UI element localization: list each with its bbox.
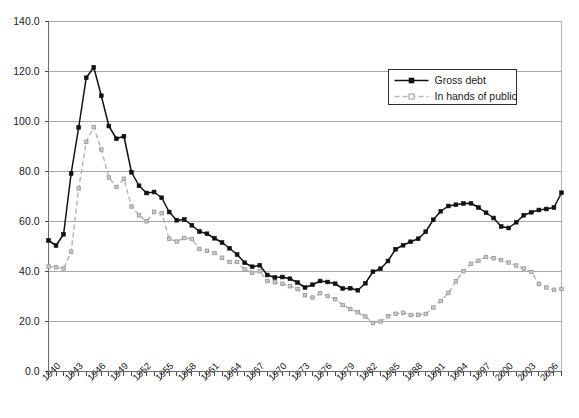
data-point-marker xyxy=(115,185,118,188)
data-point-marker xyxy=(371,321,374,324)
data-point-marker xyxy=(107,176,110,179)
data-point-marker xyxy=(537,208,541,212)
data-point-marker xyxy=(288,277,292,281)
y-tick-label: 0.0 xyxy=(25,365,40,377)
data-point-marker xyxy=(205,232,209,236)
data-point-marker xyxy=(62,267,65,270)
data-point-marker xyxy=(311,296,314,299)
data-point-marker xyxy=(175,240,178,243)
data-point-marker xyxy=(326,280,330,284)
data-point-marker xyxy=(424,230,428,234)
data-point-marker xyxy=(560,287,563,290)
data-point-marker xyxy=(371,270,375,274)
data-point-marker xyxy=(416,237,420,241)
data-point-marker xyxy=(122,134,126,138)
data-point-marker xyxy=(243,268,246,271)
data-point-marker xyxy=(454,280,457,283)
data-point-marker xyxy=(469,201,473,205)
data-point-marker xyxy=(560,191,564,195)
data-point-marker xyxy=(130,205,133,208)
data-point-marker xyxy=(62,232,66,236)
data-point-marker xyxy=(220,241,224,245)
data-point-marker xyxy=(122,177,125,180)
data-point-marker xyxy=(409,313,412,316)
data-point-marker xyxy=(296,287,299,290)
data-point-marker xyxy=(92,65,96,69)
data-point-marker xyxy=(228,260,231,263)
data-point-marker xyxy=(280,275,284,279)
data-point-marker xyxy=(507,261,510,264)
data-point-marker xyxy=(439,209,443,213)
data-point-marker xyxy=(213,251,216,254)
data-point-marker xyxy=(288,285,291,288)
data-point-marker xyxy=(545,207,549,211)
data-point-marker xyxy=(235,253,239,257)
data-point-marker xyxy=(401,243,405,247)
data-point-marker xyxy=(462,202,466,206)
data-point-marker xyxy=(107,124,111,128)
data-point-marker xyxy=(394,312,397,315)
data-point-marker xyxy=(552,206,556,210)
data-point-marker xyxy=(54,266,57,269)
data-point-marker xyxy=(364,315,367,318)
data-point-marker xyxy=(69,250,72,253)
y-tick-label: 40.0 xyxy=(19,265,40,277)
data-point-marker xyxy=(529,210,533,214)
data-point-marker xyxy=(552,288,555,291)
data-point-marker xyxy=(47,265,50,268)
data-point-marker xyxy=(356,288,360,292)
open-square-icon xyxy=(409,94,414,99)
data-point-marker xyxy=(250,271,253,274)
data-point-marker xyxy=(484,211,488,215)
data-point-marker xyxy=(190,237,193,240)
data-point-marker xyxy=(447,291,450,294)
data-point-marker xyxy=(318,279,322,283)
debt-to-gdp-line-chart: 0.020.040.060.080.0100.0120.0140.0 19401… xyxy=(0,0,579,418)
legend-label: Gross debt xyxy=(435,74,486,86)
data-point-marker xyxy=(183,236,186,239)
data-point-marker xyxy=(85,140,88,143)
legend-label: In hands of public xyxy=(435,90,517,102)
y-tick-label: 120.0 xyxy=(13,65,39,77)
data-point-marker xyxy=(168,237,171,240)
data-point-marker xyxy=(281,282,284,285)
data-point-marker xyxy=(379,320,382,323)
data-point-marker xyxy=(258,270,261,273)
data-point-marker xyxy=(416,313,419,316)
data-point-marker xyxy=(492,216,496,220)
data-point-marker xyxy=(431,218,435,222)
data-point-marker xyxy=(182,218,186,222)
y-tick-label: 100.0 xyxy=(13,115,39,127)
data-point-marker xyxy=(205,249,208,252)
data-point-marker xyxy=(469,262,472,265)
data-point-marker xyxy=(424,312,427,315)
data-point-marker xyxy=(77,126,81,130)
data-point-marker xyxy=(54,244,58,248)
data-point-marker xyxy=(152,210,155,213)
data-point-marker xyxy=(522,267,525,270)
data-point-marker xyxy=(446,204,450,208)
data-point-marker xyxy=(69,172,73,176)
data-point-marker xyxy=(303,294,306,297)
data-point-marker xyxy=(401,311,404,314)
data-point-marker xyxy=(273,281,276,284)
y-tick-label: 20.0 xyxy=(19,315,40,327)
data-point-marker xyxy=(409,240,413,244)
chart-canvas: 0.020.040.060.080.0100.0120.0140.0 19401… xyxy=(0,0,579,418)
data-point-marker xyxy=(160,196,164,200)
data-point-marker xyxy=(84,76,88,80)
data-point-marker xyxy=(213,236,217,240)
y-tick-label: 60.0 xyxy=(19,215,40,227)
data-point-marker xyxy=(115,137,119,141)
data-point-marker xyxy=(514,220,518,224)
data-point-marker xyxy=(477,259,480,262)
data-point-marker xyxy=(99,94,103,98)
y-tick-label: 140.0 xyxy=(13,15,39,27)
data-point-marker xyxy=(348,286,352,290)
data-point-marker xyxy=(507,226,511,230)
data-point-marker xyxy=(198,247,201,250)
data-point-marker xyxy=(145,191,149,195)
data-point-marker xyxy=(152,190,156,194)
y-tick-label: 80.0 xyxy=(19,165,40,177)
data-point-marker xyxy=(145,220,148,223)
